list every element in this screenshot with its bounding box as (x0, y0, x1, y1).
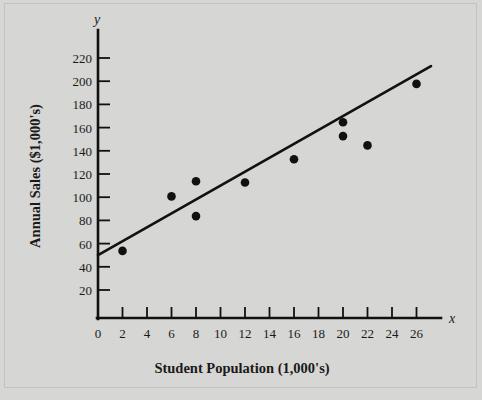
axes-group (97, 30, 441, 319)
x-tick-label: 20 (337, 326, 350, 341)
data-point (192, 212, 201, 221)
x-tick-label: 4 (144, 326, 151, 341)
data-point (118, 247, 127, 256)
x-tick-label: 8 (193, 326, 200, 341)
y-tick-label: 100 (73, 190, 93, 205)
x-tick-label: 6 (168, 326, 175, 341)
y-tick-label: 160 (73, 121, 93, 136)
x-tick-label: 18 (312, 326, 325, 341)
data-point (339, 118, 348, 127)
x-tick-label: 10 (214, 326, 227, 341)
y-axis-symbol: y (92, 12, 101, 27)
y-tick-label: 20 (79, 283, 92, 298)
x-tick-label: 12 (239, 326, 252, 341)
x-axis-title: Student Population (1,000's) (154, 360, 329, 377)
y-tick-label: 60 (79, 237, 92, 252)
y-tick-label: 80 (79, 213, 92, 228)
y-tick-label: 40 (79, 260, 92, 275)
data-point (339, 132, 348, 141)
x-tick-label: 24 (386, 326, 400, 341)
y-tick-label: 200 (73, 74, 93, 89)
x-tick-label: 16 (288, 326, 302, 341)
figure-panel: 220 200 180 160 140 120 100 80 60 40 20 … (0, 0, 482, 400)
y-tick-label: 180 (73, 97, 93, 112)
y-tick-label: 140 (73, 144, 93, 159)
x-axis-symbol: x (448, 311, 456, 326)
x-tick-marks (123, 307, 417, 317)
data-points-group (118, 80, 421, 256)
data-point (290, 155, 299, 164)
data-point (363, 141, 372, 150)
x-tick-label: 22 (361, 326, 374, 341)
x-tick-label: 14 (263, 326, 277, 341)
x-tick-label: 0 (95, 326, 102, 341)
scatter-plot: 220 200 180 160 140 120 100 80 60 40 20 … (0, 0, 482, 400)
data-point (412, 80, 421, 89)
x-tick-label: 26 (410, 326, 424, 341)
x-tick-label: 2 (119, 326, 126, 341)
y-tick-labels: 220 200 180 160 140 120 100 80 60 40 20 (73, 51, 93, 298)
y-tick-label: 120 (73, 167, 93, 182)
y-tick-label: 220 (73, 51, 93, 66)
y-axis-title: Annual Sales ($1,000's) (27, 104, 44, 248)
x-tick-labels: 0 2 4 6 8 10 12 14 16 18 20 22 24 26 (95, 326, 424, 341)
y-tick-marks (99, 58, 110, 290)
data-point (167, 192, 176, 201)
regression-line (98, 66, 431, 255)
data-point (241, 178, 250, 187)
data-point (192, 177, 201, 186)
